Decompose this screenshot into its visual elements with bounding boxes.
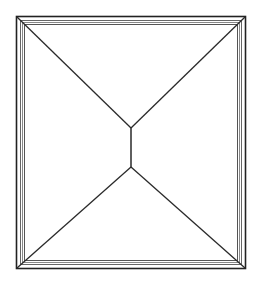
background [0, 0, 254, 281]
roof-plan-diagram [0, 0, 254, 281]
